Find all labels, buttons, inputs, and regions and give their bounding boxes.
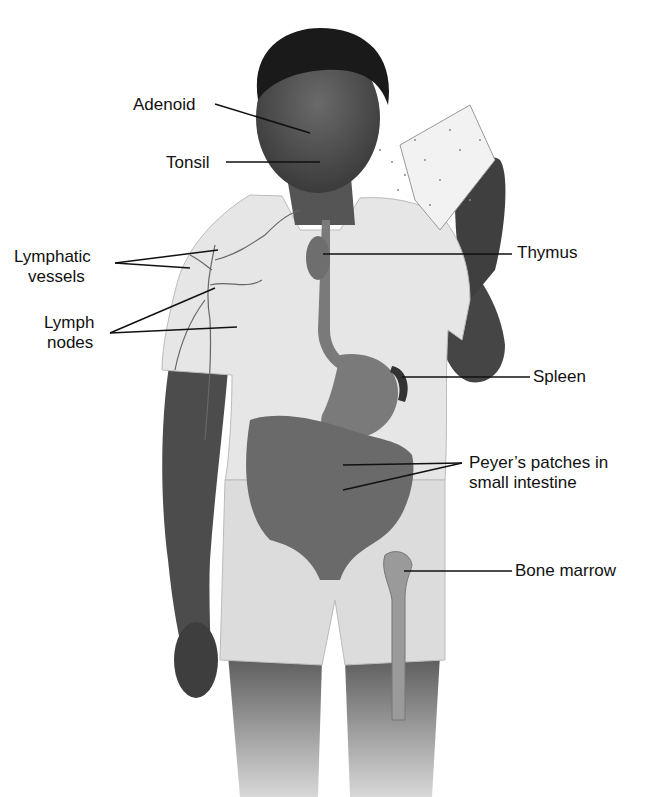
label-lymphatic-vessels: Lymphatic vessels: [14, 247, 91, 287]
label-thymus: Thymus: [517, 243, 577, 263]
label-adenoid: Adenoid: [133, 95, 195, 115]
lymphatic-system-illustration: [0, 0, 653, 797]
head: [256, 28, 389, 193]
legs: [228, 655, 440, 797]
label-bone-marrow: Bone marrow: [515, 561, 616, 581]
thymus-organ: [306, 236, 330, 280]
label-tonsil: Tonsil: [166, 153, 209, 173]
label-lymphatic-vessels-line2: vessels: [14, 267, 91, 287]
label-lymph-nodes-line2: nodes: [44, 333, 94, 353]
label-spleen: Spleen: [533, 367, 586, 387]
label-lymphatic-vessels-line1: Lymphatic: [14, 247, 91, 267]
left-arm: [162, 360, 228, 698]
label-peyers-patches-line2: small intestine: [469, 473, 608, 493]
label-lymph-nodes-line1: Lymph: [44, 313, 94, 333]
label-peyers-patches-line1: Peyer’s patches in: [469, 453, 608, 473]
label-peyers-patches: Peyer’s patches in small intestine: [469, 453, 608, 493]
left-hand: [174, 622, 218, 698]
label-lymph-nodes: Lymph nodes: [44, 313, 94, 353]
